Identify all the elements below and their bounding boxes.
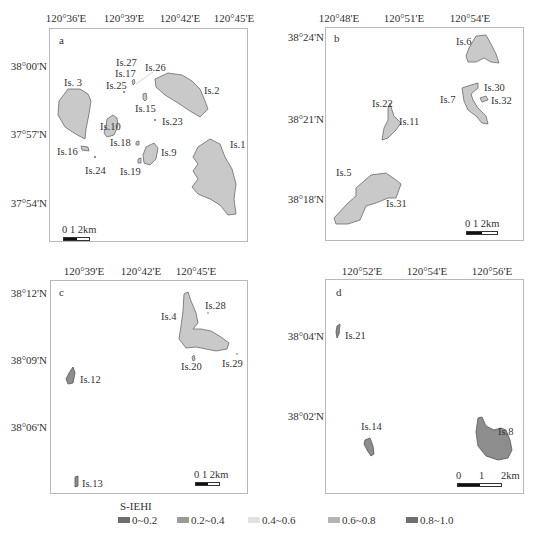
map-panel-c: c Is.28 Is.4 Is.20 Is.29 Is.12 Is.13 0 1… bbox=[50, 280, 248, 494]
island-label: Is.20 bbox=[181, 361, 202, 372]
island-label: Is.29 bbox=[222, 358, 243, 369]
island-label: Is.14 bbox=[361, 421, 382, 432]
island-label: Is.8 bbox=[498, 426, 513, 437]
island-8 bbox=[476, 417, 512, 460]
map-panel-a: a Is. bbox=[49, 28, 248, 242]
legend-item: 0.8~1.0 bbox=[406, 514, 453, 526]
y-tick: 37°54'N bbox=[11, 197, 47, 209]
island-17 bbox=[132, 79, 135, 85]
scale-bar-b: 0 1 2km bbox=[465, 218, 525, 238]
island-1 bbox=[192, 139, 236, 215]
y-tick: 38°00'N bbox=[11, 60, 47, 72]
island-9 bbox=[143, 143, 158, 165]
island-label: Is.15 bbox=[135, 103, 156, 114]
legend-swatch bbox=[248, 517, 260, 523]
legend-swatch bbox=[177, 517, 189, 523]
island-3 bbox=[58, 89, 91, 139]
x-tick: 120°36'E bbox=[46, 12, 87, 24]
y-tick: 38°09'N bbox=[11, 354, 47, 366]
scale-bar-c: 0 1 2km bbox=[194, 469, 254, 489]
island-label: Is.7 bbox=[440, 94, 455, 105]
island-label: Is.4 bbox=[161, 311, 176, 322]
island-label: Is.19 bbox=[120, 166, 141, 177]
island-label: Is.26 bbox=[145, 62, 166, 73]
x-tick: 120°45'E bbox=[214, 12, 255, 24]
y-tick: 38°18'N bbox=[288, 193, 324, 205]
panel-b-islands bbox=[326, 28, 523, 240]
island-label: Is.25 bbox=[106, 80, 127, 91]
island-2 bbox=[155, 73, 208, 117]
island-19 bbox=[138, 158, 141, 163]
x-tick: 120°39'E bbox=[64, 265, 105, 277]
legend-swatch bbox=[118, 517, 130, 523]
island-label: Is.2 bbox=[204, 85, 219, 96]
y-tick: 38°06'N bbox=[11, 421, 47, 433]
x-tick: 120°54'E bbox=[407, 265, 448, 277]
island-label: Is.28 bbox=[205, 300, 226, 311]
panel-a-islands bbox=[50, 29, 247, 241]
y-tick: 38°21'N bbox=[288, 113, 324, 125]
legend-swatch bbox=[406, 517, 418, 523]
x-tick: 120°52'E bbox=[342, 265, 383, 277]
x-tick: 120°39'E bbox=[104, 12, 145, 24]
island-label: Is.13 bbox=[82, 478, 103, 489]
scale-bar-d: 0 1 2km bbox=[456, 472, 522, 492]
island-label: Is.23 bbox=[162, 116, 183, 127]
legend-swatch bbox=[328, 517, 340, 523]
x-tick: 120°42'E bbox=[160, 12, 201, 24]
x-tick: 120°45'E bbox=[176, 265, 217, 277]
y-tick: 38°24'N bbox=[288, 31, 324, 43]
scale-bar-a: 0 1 2km bbox=[62, 224, 122, 244]
island-label: Is.9 bbox=[161, 147, 176, 158]
island-label: Is.10 bbox=[100, 121, 121, 132]
island-label: Is.18 bbox=[110, 137, 131, 148]
island-label: Is.31 bbox=[386, 198, 407, 209]
island-15 bbox=[143, 93, 147, 101]
island-label: Is.5 bbox=[336, 167, 351, 178]
island-label: Is.22 bbox=[372, 98, 393, 109]
y-tick: 38°04'N bbox=[288, 330, 324, 342]
x-tick: 120°42'E bbox=[121, 265, 162, 277]
island-label: Is.12 bbox=[80, 374, 101, 385]
map-panel-b: b Is.6 Is.30 Is.7 Is.32 Is.22 Is.11 Is.5… bbox=[325, 27, 524, 241]
x-tick: 120°56'E bbox=[472, 265, 513, 277]
island-21 bbox=[336, 324, 340, 338]
island-13 bbox=[75, 476, 78, 487]
island-label: Is.30 bbox=[484, 82, 505, 93]
y-tick: 38°12'N bbox=[11, 287, 47, 299]
island-label: Is.21 bbox=[345, 330, 366, 341]
legend-item: 0.6~0.8 bbox=[328, 514, 375, 526]
legend-item: 0.4~0.6 bbox=[248, 514, 295, 526]
island-18 bbox=[136, 141, 139, 145]
x-tick: 120°48'E bbox=[319, 12, 360, 24]
x-tick: 120°54'E bbox=[450, 12, 491, 24]
island-label: Is.32 bbox=[491, 95, 512, 106]
island-label: Is.6 bbox=[456, 36, 471, 47]
island-label: Is. 3 bbox=[64, 77, 82, 88]
panel-d-islands bbox=[326, 280, 523, 493]
y-tick: 38°02'N bbox=[288, 410, 324, 422]
island-14 bbox=[364, 438, 374, 456]
island-30 bbox=[480, 96, 488, 102]
island-12 bbox=[66, 367, 75, 384]
panel-c-islands bbox=[51, 281, 247, 493]
x-tick: 120°51'E bbox=[384, 12, 425, 24]
island-label: Is.24 bbox=[85, 165, 106, 176]
legend-item: 0~0.2 bbox=[118, 514, 157, 526]
island-label: Is.1 bbox=[230, 139, 245, 150]
legend-title: S-IEHI bbox=[120, 500, 152, 512]
y-tick: 37°57'N bbox=[11, 128, 47, 140]
island-16 bbox=[81, 146, 89, 151]
map-panel-d: d Is.21 Is.8 Is.14 0 1 2km bbox=[325, 279, 524, 494]
legend-item: 0.2~0.4 bbox=[177, 514, 224, 526]
island-label: Is.27 bbox=[116, 57, 137, 68]
island-label: Is.11 bbox=[399, 116, 419, 127]
island-label: Is.16 bbox=[57, 146, 78, 157]
island-label: Is.17 bbox=[115, 68, 136, 79]
